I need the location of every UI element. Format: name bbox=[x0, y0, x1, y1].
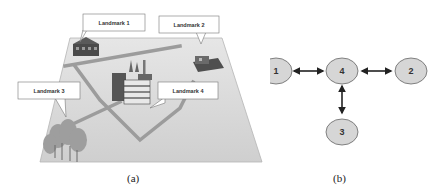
node-1: 1 bbox=[270, 58, 292, 84]
landmark-1-label: Landmark 1 bbox=[99, 20, 130, 26]
landmark-3-label: Landmark 3 bbox=[34, 88, 65, 94]
svg-text:1: 1 bbox=[273, 66, 278, 76]
landmark-2-label: Landmark 2 bbox=[174, 22, 205, 28]
landmark-map-illustration: Landmark 1 Landmark 2 Landmark 3 Landmar… bbox=[0, 0, 270, 194]
landmark-graph: 1 4 2 3 bbox=[270, 0, 443, 194]
svg-text:3: 3 bbox=[339, 127, 344, 137]
node-2: 2 bbox=[395, 58, 427, 84]
landmark-map-panel: Landmark 1 Landmark 2 Landmark 3 Landmar… bbox=[0, 0, 270, 194]
svg-text:4: 4 bbox=[339, 66, 344, 76]
landmark-graph-panel: 1 4 2 3 (b) bbox=[270, 0, 443, 194]
node-4: 4 bbox=[326, 58, 358, 84]
caption-b: (b) bbox=[333, 172, 346, 184]
node-3: 3 bbox=[326, 119, 358, 145]
landmark-4-label: Landmark 4 bbox=[173, 88, 205, 94]
caption-a: (a) bbox=[127, 172, 139, 184]
svg-text:2: 2 bbox=[408, 66, 413, 76]
